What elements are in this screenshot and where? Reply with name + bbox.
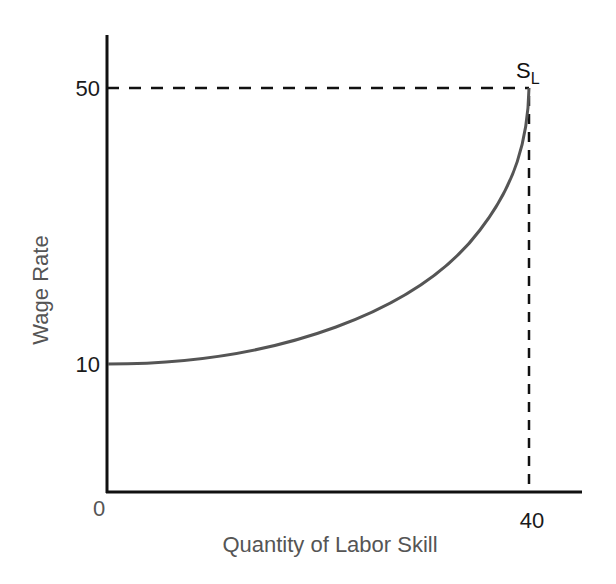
x-tick-label-40: 40 bbox=[520, 508, 544, 533]
origin-label: 0 bbox=[93, 496, 105, 521]
y-axis-title: Wage Rate bbox=[28, 235, 53, 344]
supply-curve-sl bbox=[108, 88, 529, 364]
supply-curve-label: SL bbox=[516, 58, 540, 87]
curve-label-subscript: L bbox=[531, 70, 540, 87]
x-axis-title: Quantity of Labor Skill bbox=[222, 532, 437, 557]
supply-curve-chart: SL 50 10 0 40 Quantity of Labor Skill Wa… bbox=[0, 0, 616, 584]
curve-label-main: S bbox=[516, 58, 531, 83]
y-tick-label-50: 50 bbox=[76, 76, 100, 101]
y-tick-label-10: 10 bbox=[76, 352, 100, 377]
